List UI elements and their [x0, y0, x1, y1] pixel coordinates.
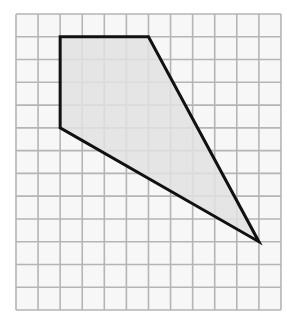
grid-figure — [0, 0, 287, 323]
